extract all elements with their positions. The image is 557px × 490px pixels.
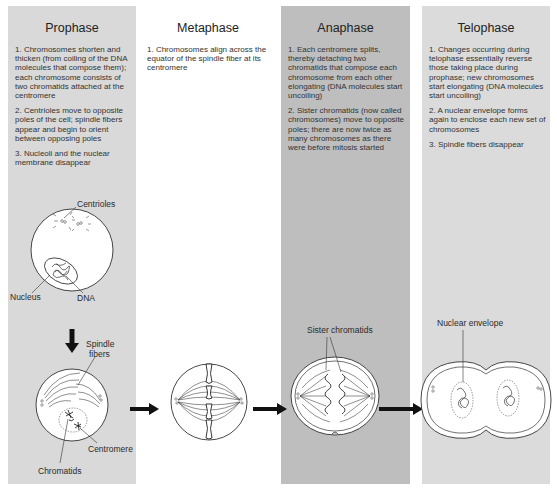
telophase-cells: Nuclear envelope bbox=[421, 318, 551, 438]
label-sister-chromatids: Sister chromatids bbox=[307, 325, 373, 335]
label-centromere: Centromere bbox=[88, 444, 133, 454]
mitosis-illustrations: Centrioles Nucleus DNA bbox=[0, 0, 557, 490]
label-spindle-fibers-2: fibers bbox=[89, 349, 110, 359]
arrow-right-icon bbox=[130, 403, 159, 415]
late-prophase-cell: Spindle fibers Centromere Chromatids bbox=[36, 339, 133, 476]
label-dna: DNA bbox=[77, 293, 95, 303]
anaphase-cell: Sister chromatids bbox=[291, 325, 379, 435]
metaphase-cell bbox=[171, 364, 247, 440]
arrow-right-icon bbox=[253, 403, 287, 415]
label-nucleus: Nucleus bbox=[10, 292, 41, 302]
label-spindle-fibers-1: Spindle bbox=[86, 339, 115, 349]
label-nuclear-envelope: Nuclear envelope bbox=[437, 318, 503, 328]
label-chromatids: Chromatids bbox=[38, 466, 81, 476]
label-centrioles: Centrioles bbox=[77, 199, 115, 209]
arrow-down-icon bbox=[65, 329, 79, 353]
early-prophase-cell: Centrioles Nucleus DNA bbox=[10, 199, 115, 303]
arrow-right-icon bbox=[379, 403, 423, 415]
